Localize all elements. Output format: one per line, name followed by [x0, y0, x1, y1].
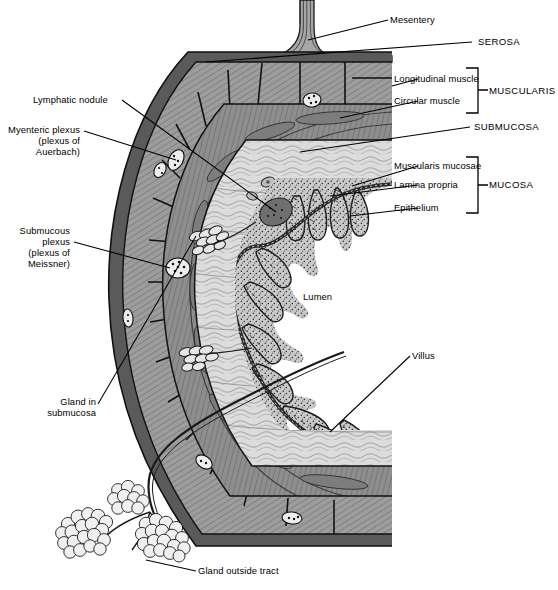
label-myenteric-plexus-line2: (plexus of — [0, 135, 80, 146]
label-lumen: Lumen — [303, 291, 332, 302]
label-submucous-plexus-line4: Meissner) — [0, 258, 70, 269]
label-myenteric-plexus-line3: Auerbach) — [0, 146, 80, 157]
label-mesentery: Mesentery — [390, 14, 435, 25]
label-submucous-plexus-line3: (plexus of — [0, 247, 70, 258]
label-myenteric-plexus-line1: Myenteric plexus — [0, 124, 80, 135]
label-submucous-plexus-line2: plexus — [0, 236, 70, 247]
figure-canvas: Mesentery SEROSA Longitudinal muscle Cir… — [0, 0, 558, 590]
label-gland-in-submucosa-line2: submucosa — [0, 407, 96, 418]
label-mucosa: MUCOSA — [489, 179, 533, 190]
label-longitudinal-muscle: Longitudinal muscle — [394, 73, 479, 84]
label-villus: Villus — [412, 350, 435, 361]
label-epithelium: Epithelium — [394, 202, 439, 213]
label-submucous-plexus-line1: Submucous — [0, 225, 70, 236]
label-gland-outside-tract: Gland outside tract — [198, 565, 279, 576]
label-lamina-propria: Lamina propria — [394, 179, 458, 190]
intestinal-wall-illustration — [0, 0, 558, 590]
label-gland-in-submucosa-line1: Gland in — [0, 396, 96, 407]
label-circular-muscle: Circular muscle — [394, 95, 460, 106]
label-muscularis: MUSCULARIS — [489, 85, 555, 96]
label-serosa: SEROSA — [478, 36, 520, 47]
label-lymphatic-nodule: Lymphatic nodule — [33, 94, 108, 105]
label-muscularis-mucosae: Muscularis mucosae — [394, 160, 481, 171]
label-submucosa: SUBMUCOSA — [474, 121, 539, 132]
